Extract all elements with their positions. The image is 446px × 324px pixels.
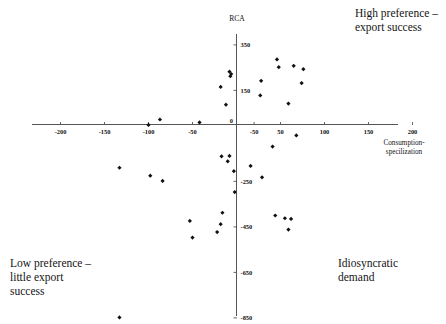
data-point: [190, 235, 194, 239]
data-point: [219, 85, 223, 89]
data-point: [258, 93, 262, 97]
data-point: [260, 175, 264, 179]
y-tick-label: 150: [241, 87, 251, 94]
data-points: [117, 57, 305, 319]
y-tick-label: -850: [241, 314, 253, 321]
data-point: [292, 64, 296, 68]
data-point: [227, 154, 231, 158]
data-point: [259, 79, 263, 83]
data-point: [117, 315, 121, 319]
x-tick-label: 150: [364, 128, 374, 135]
data-point: [160, 179, 164, 183]
annotation-high-preference: High preference – export success: [355, 6, 438, 34]
data-point: [283, 216, 287, 220]
data-point: [289, 217, 293, 221]
x-axis-title: Consumption- specilization: [364, 139, 444, 156]
data-point: [301, 67, 305, 71]
data-point: [117, 166, 121, 170]
data-point: [197, 120, 201, 124]
x-tick-label: 100: [320, 128, 330, 135]
y-tick-label: -450: [241, 223, 253, 230]
x-tick-label: 0: [230, 117, 233, 124]
x-tick-label: -200: [55, 128, 67, 135]
annotation-low-preference: Low preference – little export success: [10, 256, 91, 298]
data-point: [148, 174, 152, 178]
annotation-idiosyncratic-demand: Idiosyncratic demand: [338, 256, 398, 284]
data-point: [158, 117, 162, 121]
x-tick-label: -50: [250, 128, 259, 135]
data-point: [219, 154, 223, 158]
data-point: [277, 65, 281, 69]
data-point: [270, 144, 274, 148]
y-tick-label: 350: [241, 41, 251, 48]
data-point: [232, 169, 236, 173]
x-tick-label: -150: [99, 128, 111, 135]
data-point: [146, 123, 150, 127]
data-point: [275, 57, 279, 61]
x-tick-label: -100: [143, 128, 155, 135]
x-tick-label: 50: [277, 128, 283, 135]
data-point: [294, 133, 298, 137]
data-point: [286, 228, 290, 232]
data-point: [248, 164, 252, 168]
data-point: [224, 103, 228, 107]
data-point: [188, 219, 192, 223]
data-point: [215, 230, 219, 234]
x-tick-label: 200: [408, 128, 418, 135]
data-point: [220, 211, 224, 215]
data-point: [226, 159, 230, 163]
x-tick-label: -50: [188, 128, 197, 135]
y-axis-title: RCA: [214, 14, 260, 23]
data-point: [300, 81, 304, 85]
data-point: [286, 101, 290, 105]
data-point: [273, 213, 277, 217]
data-point: [219, 222, 223, 226]
y-tick-label: -250: [241, 178, 253, 185]
y-tick-label: -650: [241, 269, 253, 276]
scatter-chart: -200-150-100-500-5050100150200350150-250…: [0, 0, 446, 324]
